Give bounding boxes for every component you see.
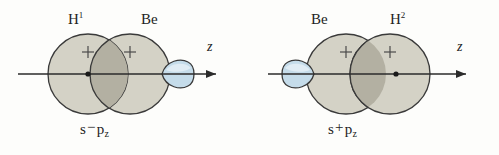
nucleus-dot-h2 xyxy=(393,71,398,76)
left-panel-graphics xyxy=(0,0,249,155)
diagram-panel-right: Be H2 z s+pz xyxy=(250,0,499,155)
combination-label-right: s+pz xyxy=(328,122,357,137)
right-panel-graphics xyxy=(250,0,499,155)
z-axis-arrowhead-left xyxy=(206,70,216,78)
diagram-panel-left: H1 Be z s−pz xyxy=(0,0,249,155)
z-axis-label-left: z xyxy=(207,40,212,54)
atom-label-h2: H2 xyxy=(390,12,405,27)
atom-label-be-left: Be xyxy=(141,12,158,27)
atom-label-be-right: Be xyxy=(311,12,328,27)
combination-label-left: s−pz xyxy=(80,122,109,137)
atom-label-h1: H1 xyxy=(68,12,83,27)
orbital-overlap-figure: H1 Be z s−pz xyxy=(0,0,499,155)
nucleus-dot-h1 xyxy=(85,71,90,76)
z-axis-arrowhead-right xyxy=(456,70,466,78)
z-axis-label-right: z xyxy=(457,40,462,54)
